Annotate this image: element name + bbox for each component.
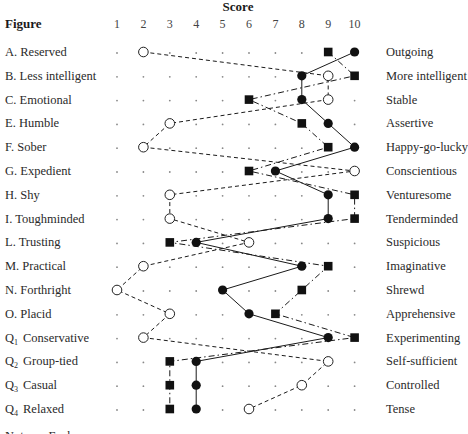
grid-dot [169, 171, 171, 173]
grid-dot [354, 266, 356, 268]
grid-dot [195, 124, 197, 126]
score-axis-title: Score [223, 0, 254, 14]
row-label-left: Q4Relaxed [5, 402, 65, 418]
filled-square-marker [245, 95, 254, 104]
grid-dot [195, 290, 197, 292]
footer-note-clipped: Note: ... Each ... [5, 429, 86, 434]
grid-dot [301, 171, 303, 173]
filled-circle-marker [271, 166, 280, 175]
grid-dot [275, 338, 277, 340]
grid-dot [143, 124, 145, 126]
filled-square-marker [298, 119, 307, 128]
open-circle-marker [323, 71, 333, 81]
row-label-right: Venturesome [386, 188, 452, 202]
grid-dot [169, 52, 171, 54]
grid-dot [327, 409, 329, 411]
grid-dot [301, 409, 303, 411]
grid-dot [116, 266, 118, 268]
grid-dot [354, 314, 356, 316]
open-circle-marker [165, 119, 175, 129]
grid-dot [275, 195, 277, 197]
row-label-right: Conscientious [386, 164, 457, 178]
open-circle-marker [165, 309, 175, 319]
row-label-right: Self-sufficient [386, 354, 458, 368]
grid-dot [275, 243, 277, 245]
row-label-left: N. Forthright [5, 283, 72, 297]
grid-dot [195, 76, 197, 78]
series-markers [112, 47, 359, 414]
grid-dot [222, 195, 224, 197]
chart-header: ScoreFigure12345678910 [5, 0, 361, 31]
score-tick: 7 [272, 17, 278, 31]
grid-dot [248, 219, 250, 221]
row-label-left: Q3Casual [5, 378, 58, 394]
grid-dot [195, 266, 197, 268]
filled-circle-marker [324, 190, 333, 199]
filled-circle-marker [324, 119, 333, 128]
filled-square-marker [298, 286, 307, 295]
row-label-right: Controlled [386, 378, 440, 392]
grid-dot [248, 338, 250, 340]
filled-square-marker [324, 262, 333, 271]
row-label-right: Suspicious [386, 235, 440, 249]
filled-square-marker [166, 381, 175, 390]
grid-dot [222, 266, 224, 268]
filled-square-marker [166, 405, 175, 414]
grid-dot [222, 385, 224, 387]
grid-dot [301, 314, 303, 316]
row-label-left: L. Trusting [5, 235, 61, 249]
grid-dot [222, 362, 224, 364]
grid-dot [275, 409, 277, 411]
filled-circle-marker [192, 404, 201, 413]
row-label-left: F. Sober [5, 140, 47, 154]
open-circle-marker [297, 380, 307, 390]
grid-dot [116, 409, 118, 411]
grid-dot [222, 314, 224, 316]
filled-square-marker [271, 310, 280, 319]
grid-dot [248, 76, 250, 78]
grid-dot [143, 219, 145, 221]
row-label-left: Q2Group-tied [5, 354, 79, 370]
series-lines [117, 52, 355, 409]
grid-dot [116, 314, 118, 316]
grid-dot [195, 52, 197, 54]
score-tick: 3 [167, 17, 173, 31]
row-label-right: Happy-go-lucky [386, 140, 468, 154]
grid-dot [143, 385, 145, 387]
grid-dot [301, 338, 303, 340]
open-circle-marker [165, 214, 175, 224]
grid-dot [169, 290, 171, 292]
filled-square-marker [166, 238, 175, 247]
row-label-left: Q1Conservative [5, 331, 89, 347]
grid-dot [116, 385, 118, 387]
filled-circle-marker [192, 357, 201, 366]
grid-dot [301, 52, 303, 54]
grid-dot [275, 52, 277, 54]
grid-dot [195, 195, 197, 197]
grid-dot [275, 100, 277, 102]
row-label-right: More intelligent [386, 69, 467, 83]
grid-dot [116, 362, 118, 364]
grid-dot [222, 124, 224, 126]
grid-dot [248, 290, 250, 292]
filled-square-marker [324, 143, 333, 152]
grid-dot [169, 76, 171, 78]
grid-dot [301, 147, 303, 149]
open-circle-marker [350, 166, 360, 176]
grid-dot [222, 219, 224, 221]
row-label-left: M. Practical [5, 259, 67, 273]
row-label-right: Experimenting [386, 331, 461, 345]
score-tick: 5 [220, 17, 226, 31]
grid-dot [116, 147, 118, 149]
square-line [170, 52, 355, 409]
row-label-right: Stable [386, 93, 418, 107]
open-circle-marker [244, 404, 254, 414]
filled-square-marker [350, 72, 359, 81]
grid-dot [195, 171, 197, 173]
filled-circle-marker [324, 214, 333, 223]
grid-dot [143, 409, 145, 411]
filled-square-marker [166, 357, 175, 366]
grid-dot [195, 219, 197, 221]
grid-dot [301, 362, 303, 364]
row-label-right: Apprehensive [386, 307, 456, 321]
